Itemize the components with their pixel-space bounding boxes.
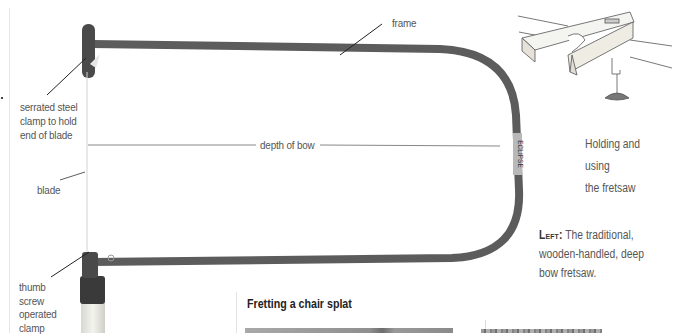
label-depth-of-bow: depth of bow bbox=[260, 138, 315, 152]
handle-ferrule bbox=[80, 276, 105, 304]
leader-blade bbox=[60, 172, 85, 180]
depth-line-right bbox=[320, 145, 500, 146]
caption-line: wooden-handled, deep bbox=[539, 245, 644, 264]
label-thumb-screw-clamp: thumb screw operated clamp bbox=[19, 281, 57, 335]
caption-line: Left: The traditional, bbox=[539, 226, 644, 245]
caption-line: bow fretsaw. bbox=[539, 264, 644, 283]
label-line: clamp bbox=[19, 322, 57, 335]
label-line: operated bbox=[19, 308, 57, 322]
inset-caption: Holding and using the fretsaw bbox=[585, 133, 665, 199]
label-line: thumb bbox=[19, 281, 57, 295]
label-frame: frame bbox=[392, 16, 416, 30]
label-line: clamp to hold bbox=[20, 114, 78, 128]
section-rule bbox=[236, 292, 237, 333]
bottom-clamp-block bbox=[82, 252, 98, 278]
step-photo-1 bbox=[245, 328, 453, 333]
section-title: Fretting a chair splat bbox=[247, 296, 352, 311]
caption-text: The traditional, bbox=[563, 228, 634, 242]
bench-pin-sketch bbox=[518, 12, 672, 100]
top-clamp-post bbox=[82, 24, 95, 78]
label-blade: blade bbox=[37, 183, 60, 197]
label-serrated-clamp: serrated steel clamp to hold end of blad… bbox=[20, 100, 78, 142]
leader-top-clamp bbox=[47, 58, 86, 95]
step-photo-2 bbox=[481, 329, 602, 333]
label-line: end of blade bbox=[20, 128, 78, 142]
caption-line: Holding and using bbox=[585, 133, 665, 177]
bow-frame bbox=[92, 44, 519, 262]
caption-line: the fretsaw bbox=[585, 177, 665, 199]
label-line: screw bbox=[19, 295, 57, 309]
caption-lead: Left: bbox=[539, 228, 563, 242]
main-caption: Left: The traditional, wooden-handled, d… bbox=[539, 226, 644, 283]
label-line: serrated steel bbox=[20, 100, 78, 114]
brand-stamp-text: ECLIPSE bbox=[517, 140, 524, 168]
